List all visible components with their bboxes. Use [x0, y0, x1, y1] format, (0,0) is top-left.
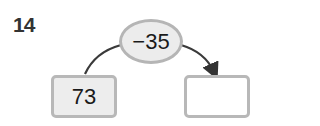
start-value: 73	[72, 84, 96, 110]
answer-box[interactable]	[184, 75, 250, 118]
operation-oval: −35	[119, 19, 183, 64]
left-connector-line	[85, 45, 121, 74]
start-value-box: 73	[51, 75, 117, 118]
right-arrow-icon	[181, 45, 214, 72]
operation-label: −35	[132, 29, 169, 55]
